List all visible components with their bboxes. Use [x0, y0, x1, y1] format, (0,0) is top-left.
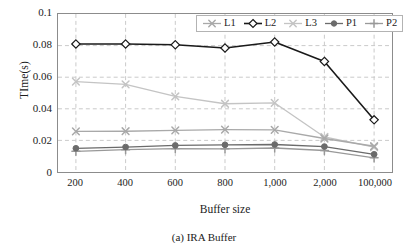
data-series-layer — [58, 14, 392, 172]
chart-legend: L1L2L3P1P2 — [196, 15, 403, 32]
plot-area — [57, 13, 393, 173]
legend-marker-x-icon — [202, 18, 222, 29]
y-axis-title: TIme(s) — [18, 32, 30, 128]
legend-label: P2 — [386, 18, 397, 29]
x-axis-tick-label: 2,000 — [313, 178, 337, 189]
x-axis-tick-label: 100,000 — [358, 178, 392, 189]
legend-label: L3 — [305, 18, 317, 29]
x-axis-tick-label: 200 — [67, 178, 83, 189]
legend-marker-diamond-open-icon — [243, 18, 263, 29]
legend-label: L2 — [265, 18, 277, 29]
legend-marker-plus-icon — [364, 18, 384, 29]
x-axis-tick-label: 1,000 — [263, 178, 287, 189]
x-axis-title: Buffer size — [57, 203, 393, 215]
figure-caption: (a) IRA Buffer — [0, 231, 408, 243]
x-axis-tick-labels: 2004006008001,0002,000100,000 — [57, 178, 393, 194]
legend-item-l2: L2 — [243, 18, 277, 29]
y-axis-tick-label: 0.08 — [8, 39, 52, 50]
y-axis-tick-label: 0.1 — [8, 7, 52, 18]
legend-marker-x-icon — [283, 18, 303, 29]
y-axis-tick-label: 0.06 — [8, 71, 52, 82]
chart-figure: 00.020.040.060.080.1 TIme(s) 20040060080… — [0, 0, 408, 243]
y-axis-tick-label: 0.02 — [8, 135, 52, 146]
legend-item-p1: P1 — [324, 18, 357, 29]
legend-marker-circle-filled-icon — [324, 18, 344, 29]
legend-item-l1: L1 — [202, 18, 236, 29]
x-axis-tick-label: 600 — [167, 178, 183, 189]
y-axis-tick-label: 0 — [8, 167, 52, 178]
series-l2 — [72, 38, 379, 124]
y-axis-tick-label: 0.04 — [8, 103, 52, 114]
legend-label: P1 — [346, 18, 357, 29]
legend-item-p2: P2 — [364, 18, 397, 29]
y-axis-tick-labels: 00.020.040.060.080.1 — [8, 0, 52, 243]
x-axis-tick-label: 400 — [117, 178, 133, 189]
x-axis-tick-label: 800 — [217, 178, 233, 189]
legend-item-l3: L3 — [283, 18, 317, 29]
legend-label: L1 — [224, 18, 236, 29]
